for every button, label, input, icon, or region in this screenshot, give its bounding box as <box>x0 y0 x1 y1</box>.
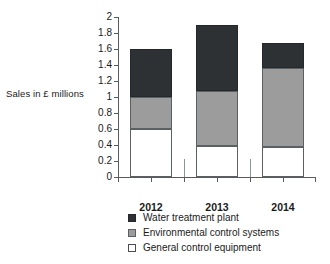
legend-label-water-treatment-plant: Water treatment plant <box>143 211 239 224</box>
y-tick-2: 2 <box>118 17 119 18</box>
bar-chart-figure: Sales in £ millions 2 1.8 1.6 1.4 1.2 1 … <box>0 0 330 264</box>
bar-2014-segment-water-treatment-plant[interactable] <box>262 43 304 68</box>
bar-2012[interactable] <box>130 49 172 177</box>
cell-divider-2 <box>184 159 185 177</box>
y-tick-label-1p2: 1.2 <box>88 74 112 87</box>
x-tick-2 <box>184 177 185 182</box>
y-tick-label-1p8: 1.8 <box>88 26 112 39</box>
y-tick-label-0p8: 0.8 <box>88 106 112 119</box>
y-tick-label-0: 0 <box>88 170 112 183</box>
y-tick-0p6: 0.6 <box>118 129 119 130</box>
x-tick-5 <box>283 177 284 182</box>
y-tick-label-1p4: 1.4 <box>88 58 112 71</box>
cell-divider-4 <box>250 159 251 177</box>
y-tick-0p4: 0.4 <box>118 145 119 146</box>
x-tick-4 <box>250 177 251 182</box>
bar-2014-segment-environmental-control-systems[interactable] <box>262 68 304 147</box>
y-tick-label-0p2: 0.2 <box>88 154 112 167</box>
bar-2013-segment-water-treatment-plant[interactable] <box>196 25 238 91</box>
legend-item-environmental-control-systems[interactable]: Environmental control systems <box>128 225 328 240</box>
y-tick-1: 1 <box>118 97 119 98</box>
x-tick-6 <box>315 177 316 182</box>
bar-2013-segment-environmental-control-systems[interactable] <box>196 91 238 146</box>
x-tick-3 <box>217 177 218 182</box>
y-tick-label-2: 2 <box>88 10 112 23</box>
y-tick-1p8: 1.8 <box>118 33 119 34</box>
legend-swatch-gray-icon <box>128 229 136 237</box>
y-tick-1p2: 1.2 <box>118 81 119 82</box>
y-tick-1p6: 1.6 <box>118 49 119 50</box>
bar-2012-segment-water-treatment-plant[interactable] <box>130 49 172 97</box>
y-tick-label-0p6: 0.6 <box>88 122 112 135</box>
bar-2014[interactable] <box>262 43 304 177</box>
chart-legend: Water treatment plant Environmental cont… <box>128 210 328 255</box>
bar-2012-segment-general-control-equipment[interactable] <box>130 129 172 177</box>
y-tick-0p2: 0.2 <box>118 161 119 162</box>
x-tick-0 <box>118 177 119 182</box>
plot-area: 2 1.8 1.6 1.4 1.2 1 0.8 0.6 0.4 0.2 0 <box>118 17 316 177</box>
y-tick-label-0p4: 0.4 <box>88 138 112 151</box>
legend-swatch-dark-icon <box>128 214 136 222</box>
y-tick-1p4: 1.4 <box>118 65 119 66</box>
legend-item-water-treatment-plant[interactable]: Water treatment plant <box>128 210 328 225</box>
bar-2013-segment-general-control-equipment[interactable] <box>196 146 238 177</box>
legend-item-general-control-equipment[interactable]: General control equipment <box>128 240 328 255</box>
y-tick-0p8: 0.8 <box>118 113 119 114</box>
legend-label-environmental-control-systems: Environmental control systems <box>143 226 279 239</box>
y-tick-label-1p6: 1.6 <box>88 42 112 55</box>
bar-2014-segment-general-control-equipment[interactable] <box>262 147 304 177</box>
bar-2012-segment-environmental-control-systems[interactable] <box>130 97 172 129</box>
legend-label-general-control-equipment: General control equipment <box>143 241 261 254</box>
y-tick-label-1: 1 <box>88 90 112 103</box>
legend-swatch-white-icon <box>128 244 136 252</box>
bar-2013[interactable] <box>196 25 238 177</box>
x-tick-1 <box>151 177 152 182</box>
